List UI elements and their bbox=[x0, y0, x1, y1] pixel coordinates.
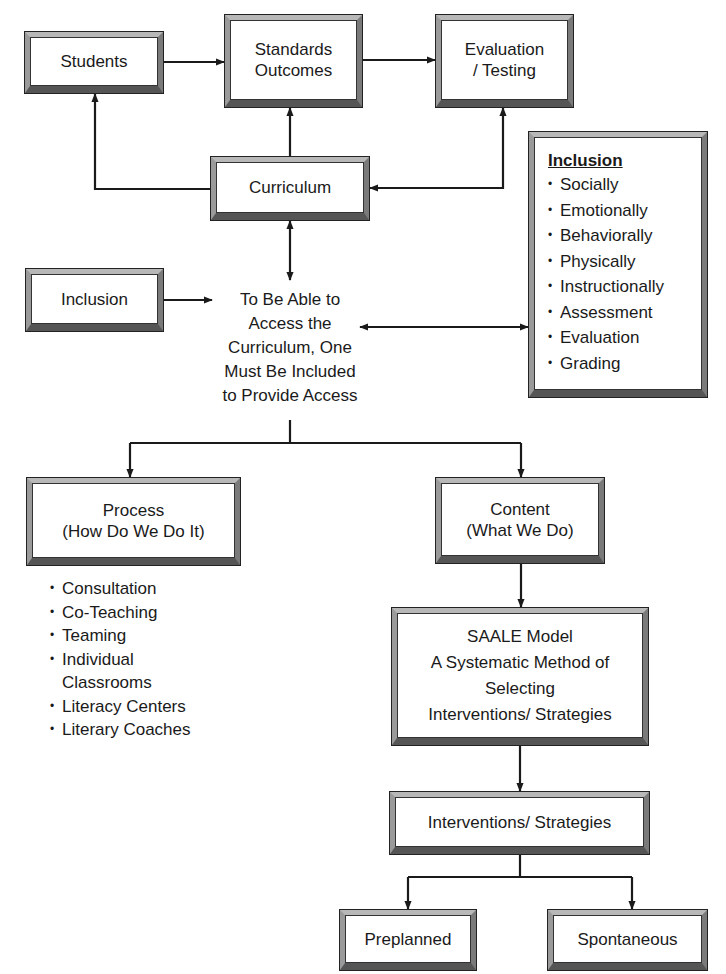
list-item: Assessment bbox=[548, 300, 664, 326]
list-item: Behaviorally bbox=[548, 223, 664, 249]
node-inclusion-panel: Inclusion Socially Emotionally Behaviora… bbox=[529, 132, 707, 397]
node-inclusion-source: Inclusion bbox=[26, 269, 163, 331]
list-item: Grading bbox=[548, 351, 664, 377]
node-saale-model-label: SAALE Model A Systematic Method of Selec… bbox=[428, 624, 611, 728]
flowchart-canvas: Students Standards Outcomes Evaluation /… bbox=[0, 0, 726, 974]
list-item: Instructionally bbox=[548, 274, 664, 300]
edge-curriculum-students bbox=[95, 94, 211, 189]
node-preplanned-label: Preplanned bbox=[365, 929, 452, 950]
node-evaluation-testing: Evaluation / Testing bbox=[436, 15, 573, 107]
process-methods-list: Consultation Co-Teaching Teaming Individ… bbox=[50, 577, 250, 742]
list-item: Co-Teaching bbox=[50, 601, 250, 625]
list-item: Individual Classrooms bbox=[50, 648, 250, 695]
node-interventions-strategies-label: Interventions/ Strategies bbox=[428, 812, 611, 833]
list-item: Consultation bbox=[50, 577, 250, 601]
list-item: Evaluation bbox=[548, 325, 664, 351]
inclusion-panel-title: Inclusion bbox=[548, 149, 623, 172]
node-content-label: Content (What We Do) bbox=[466, 499, 573, 541]
list-item: Literary Coaches bbox=[50, 718, 250, 742]
node-curriculum-label: Curriculum bbox=[249, 177, 331, 198]
edge-curriculum-evaluation bbox=[370, 108, 503, 188]
node-saale-model: SAALE Model A Systematic Method of Selec… bbox=[392, 608, 648, 745]
node-spontaneous-label: Spontaneous bbox=[577, 929, 677, 950]
node-standards-outcomes: Standards Outcomes bbox=[225, 15, 362, 107]
list-item: Emotionally bbox=[548, 198, 664, 224]
list-item: Literacy Centers bbox=[50, 695, 250, 719]
node-standards-outcomes-label: Standards Outcomes bbox=[255, 39, 333, 81]
node-access-statement: To Be Able to Access the Curriculum, One… bbox=[205, 288, 375, 408]
node-evaluation-testing-label: Evaluation / Testing bbox=[465, 39, 544, 81]
list-item: Socially bbox=[548, 172, 664, 198]
node-spontaneous: Spontaneous bbox=[548, 910, 707, 970]
node-content: Content (What We Do) bbox=[436, 478, 604, 563]
node-process-label: Process (How Do We Do It) bbox=[62, 500, 204, 542]
inclusion-panel-list: Socially Emotionally Behaviorally Physic… bbox=[548, 172, 664, 376]
node-students: Students bbox=[25, 32, 163, 93]
node-interventions-strategies: Interventions/ Strategies bbox=[390, 792, 649, 854]
list-item: Physically bbox=[548, 249, 664, 275]
list-item: Teaming bbox=[50, 624, 250, 648]
node-students-label: Students bbox=[60, 51, 127, 72]
node-process: Process (How Do We Do It) bbox=[27, 478, 240, 565]
node-curriculum: Curriculum bbox=[211, 157, 369, 220]
node-inclusion-source-label: Inclusion bbox=[61, 289, 128, 310]
node-preplanned: Preplanned bbox=[340, 910, 476, 970]
